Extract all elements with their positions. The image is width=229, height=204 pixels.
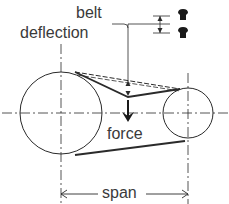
deflection-leader (112, 16, 170, 85)
force-label: force (107, 126, 143, 141)
belt-label: belt (76, 5, 102, 20)
span-label: span (102, 185, 137, 200)
belt-bottom (75, 141, 185, 155)
center-lines (2, 44, 229, 204)
deflection-label: deflection (20, 25, 89, 40)
deflection-arrowheads (126, 16, 163, 96)
belt-undeflected-dashed (75, 72, 180, 89)
force-arrow (122, 100, 134, 122)
tension-gauge-icon (178, 9, 188, 38)
